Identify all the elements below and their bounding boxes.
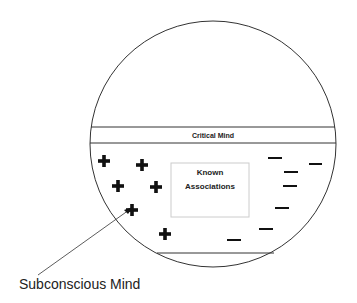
plus-icon [112, 180, 124, 192]
minus-signs [227, 158, 322, 240]
plus-icon [159, 228, 171, 240]
mind-diagram: Critical Mind Known Associations Subcons… [0, 0, 357, 303]
critical-mind-label: Critical Mind [192, 132, 234, 139]
plus-icon [136, 159, 148, 171]
plus-icon [150, 181, 162, 193]
plus-signs [98, 155, 171, 240]
associations-label: Associations [185, 182, 235, 191]
pointer-line [38, 210, 129, 275]
subconscious-mind-caption: Subconscious Mind [19, 276, 140, 292]
mind-circle [90, 21, 336, 267]
known-label: Known [197, 168, 224, 177]
plus-icon [98, 155, 110, 167]
